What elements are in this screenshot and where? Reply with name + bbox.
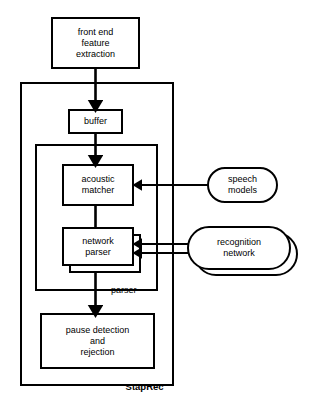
parser-group-line-1: parser (111, 285, 137, 295)
diagram-svg (0, 0, 320, 409)
recognition-network-ellipse (188, 227, 290, 269)
network-parser-box (63, 228, 133, 265)
speech-models-ellipse (208, 168, 277, 202)
parser-group-label: parser (101, 274, 137, 307)
staprec-label-text: StapRec (126, 381, 164, 392)
buffer-box (69, 110, 122, 133)
diagram-canvas: front end feature extraction buffer acou… (0, 0, 320, 409)
pause-detection-and-rejection-box (41, 314, 154, 368)
staprec-container-label: StapRec (115, 370, 164, 403)
acoustic-matcher-box (63, 165, 133, 205)
front-end-feature-extraction-box (52, 18, 139, 68)
